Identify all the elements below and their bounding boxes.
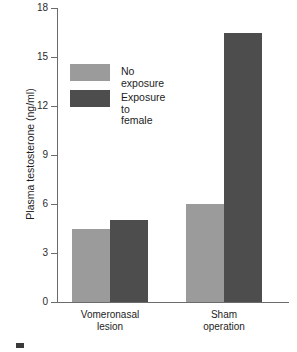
y-tick-label-18: 18	[37, 3, 48, 13]
plot-area	[57, 8, 289, 302]
y-tick-label-6: 6	[42, 199, 48, 209]
legend-item-exposure-to-female: Exposure to female	[70, 90, 165, 127]
legend-swatch-exposure-to-female	[70, 90, 110, 107]
y-tick-label-15: 15	[37, 52, 48, 62]
x-axis-line	[57, 302, 289, 303]
legend-label-exposure-to-female: Exposure to female	[121, 90, 165, 127]
y-tick-label-3: 3	[42, 248, 48, 258]
bar-sham-exposure-to-female	[224, 33, 262, 303]
bar-chart-figure: Plasma testosterone (ng/ml) 0 3 6 9 12 1…	[0, 0, 297, 352]
bar-sham-no-exposure	[186, 204, 224, 302]
y-tick-label-9: 9	[42, 150, 48, 160]
legend-item-no-exposure: No exposure	[70, 64, 164, 89]
y-tick-label-0: 0	[42, 297, 48, 307]
bar-vomeronasal-no-exposure	[72, 229, 110, 303]
y-tick-label-12: 12	[37, 101, 48, 111]
bar-vomeronasal-exposure-to-female	[110, 220, 148, 302]
y-axis-title: Plasma testosterone (ng/ml)	[24, 44, 36, 264]
y-tick-mark-0	[51, 302, 57, 303]
legend-swatch-no-exposure	[70, 64, 110, 81]
page-artifact-mark	[16, 343, 24, 348]
legend-label-no-exposure: No exposure	[121, 64, 164, 89]
x-category-label-sham-operation: Sham operation	[166, 309, 282, 333]
x-category-label-vomeronasal-lesion: Vomeronasal lesion	[52, 309, 168, 333]
